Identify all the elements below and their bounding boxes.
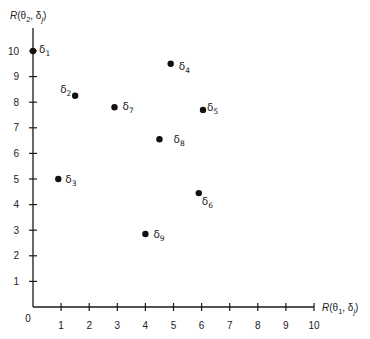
- point-marker: [156, 136, 162, 142]
- point-label: δ4: [179, 60, 190, 75]
- data-point-delta-7: δ7: [111, 100, 134, 115]
- x-tick-label: 6: [199, 320, 205, 331]
- point-label: δ9: [153, 228, 164, 243]
- x-tick-label: 2: [86, 320, 92, 331]
- axes: [33, 28, 314, 307]
- y-tick-label: 2: [13, 250, 19, 261]
- x-axis-title-r: R: [322, 302, 329, 313]
- point-label: δ2: [60, 83, 71, 98]
- data-point-delta-2: δ2: [60, 83, 78, 99]
- tick-labels: 1234567891012345678910: [8, 46, 320, 332]
- point-marker: [200, 107, 206, 113]
- x-axis-title-delta: , δ: [342, 302, 354, 313]
- origin-label: 0: [25, 313, 31, 324]
- point-marker: [55, 176, 61, 182]
- x-axis-title-end: ): [355, 302, 358, 313]
- y-axis-title: R(θ2, δj): [10, 10, 46, 24]
- y-tick-label: 10: [8, 46, 20, 57]
- point-label: δ8: [173, 133, 184, 148]
- x-tick-label: 10: [308, 320, 320, 331]
- y-tick-label: 9: [13, 71, 19, 82]
- y-tick-label: 3: [13, 225, 19, 236]
- x-axis-title: R(θ1, δj): [322, 302, 358, 316]
- x-tick-label: 7: [227, 320, 233, 331]
- x-tick-label: 8: [255, 320, 261, 331]
- point-marker: [111, 104, 117, 110]
- scatter-chart: 1234567891012345678910 0 R(θ2, δj) R(θ1,…: [0, 0, 370, 339]
- point-label: δ5: [207, 101, 218, 116]
- point-label: δ3: [65, 173, 76, 188]
- point-label: δ7: [122, 100, 133, 115]
- data-point-delta-8: δ8: [156, 133, 185, 148]
- x-tick-label: 4: [143, 320, 149, 331]
- y-tick-label: 1: [13, 276, 19, 287]
- y-tick-label: 5: [13, 174, 19, 185]
- data-point-delta-9: δ9: [142, 228, 165, 243]
- y-tick-label: 6: [13, 148, 19, 159]
- point-marker: [30, 48, 36, 54]
- y-axis-title-delta: , δ: [30, 10, 42, 21]
- x-tick-label: 1: [58, 320, 64, 331]
- x-tick-label: 9: [283, 320, 289, 331]
- y-tick-label: 8: [13, 97, 19, 108]
- y-axis-title-r: R: [10, 10, 17, 21]
- data-points: δ1δ2δ3δ4δ5δ6δ7δ8δ9: [30, 43, 219, 243]
- data-point-delta-5: δ5: [200, 101, 219, 116]
- data-point-delta-6: δ6: [196, 190, 214, 210]
- point-marker: [167, 61, 173, 67]
- y-tick-label: 7: [13, 122, 19, 133]
- x-tick-label: 5: [171, 320, 177, 331]
- y-tick-label: 4: [13, 199, 19, 210]
- point-marker: [142, 231, 148, 237]
- y-axis-title-end: ): [43, 10, 46, 21]
- point-label: δ1: [39, 43, 50, 58]
- data-point-delta-3: δ3: [55, 173, 77, 188]
- point-marker: [72, 93, 78, 99]
- data-point-delta-4: δ4: [167, 60, 190, 75]
- x-tick-label: 3: [115, 320, 121, 331]
- point-label: δ6: [202, 195, 213, 210]
